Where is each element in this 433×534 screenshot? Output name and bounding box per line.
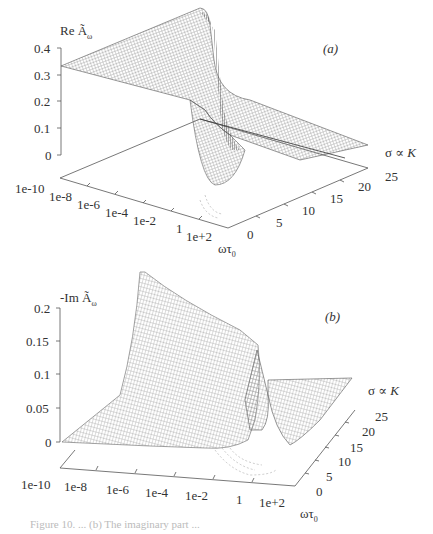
panel-b-xtick: 1e-8 xyxy=(64,480,87,493)
panel-b-ztick: 0.1 xyxy=(34,368,50,381)
panel-a-ytick: 5 xyxy=(276,216,283,229)
panel-b-ytick: 0 xyxy=(316,485,323,498)
panel-a-xtick: 1e+2 xyxy=(186,230,212,243)
panel-b-surface-peak xyxy=(245,350,268,430)
panel-a-y-title: σ ∝ K xyxy=(385,146,416,159)
panel-a-xtick: 1e-10 xyxy=(15,182,45,195)
panel-b-ytick: 5 xyxy=(326,470,333,483)
panel-b-y-title: σ ∝ K xyxy=(368,384,399,397)
panel-b-ytick: 10 xyxy=(338,455,351,468)
panel-b-label: (b) xyxy=(325,310,340,323)
panel-a-xtick: 1e-6 xyxy=(77,198,100,211)
panel-a-x-title: ωτ0 xyxy=(218,242,236,259)
panel-a-xtick: 1e-4 xyxy=(105,206,128,219)
panel-a-z-title: Re Ãω xyxy=(60,24,92,41)
panel-a-ytick: 20 xyxy=(358,180,371,193)
panel-b-z-title: -Im Ãω xyxy=(60,291,97,308)
panel-a-ztick: 0.4 xyxy=(34,42,50,55)
panel-a-xtick: 1e-8 xyxy=(49,190,72,203)
figure-caption: Figure 10. ... (b) The imaginary part ..… xyxy=(30,518,200,530)
panel-b-z-axis xyxy=(56,308,60,442)
panel-b-xtick: 1e-10 xyxy=(21,478,51,491)
panel-a-xtick: 1e-2 xyxy=(133,214,156,227)
panel-b-ytick: 20 xyxy=(362,425,375,438)
panel-b-x-title: ωτ0 xyxy=(300,507,318,524)
panel-a-label: (a) xyxy=(323,42,338,55)
panel-b-xtick: 1 xyxy=(236,493,243,506)
panel-a-xtick: 1 xyxy=(176,222,183,235)
panel-b-xtick: 1e-4 xyxy=(145,486,168,499)
panel-b-base xyxy=(60,410,355,486)
panel-b-xtick: 1e-6 xyxy=(106,483,129,496)
panel-a-ztick: 0.2 xyxy=(34,95,50,108)
panel-a-ytick: 0 xyxy=(247,228,254,241)
panel-b-ztick: 0 xyxy=(45,436,52,449)
panel-b-ztick: 0.05 xyxy=(26,402,49,415)
panel-b-ytick: 25 xyxy=(375,410,388,423)
panel-a-z-axis xyxy=(57,48,61,155)
panel-b-ztick: 0.15 xyxy=(26,335,49,348)
panel-b-xtick: 1e+2 xyxy=(259,496,285,509)
panel-b-ytick: 15 xyxy=(350,441,363,454)
panel-a-ztick: 0.1 xyxy=(34,122,50,135)
panel-b-xtick: 1e-2 xyxy=(185,489,208,502)
panel-a-ytick: 25 xyxy=(385,170,398,183)
panel-a-ytick: 10 xyxy=(302,204,315,217)
panel-b-ztick: 0.2 xyxy=(34,302,50,315)
panel-a-ytick: 15 xyxy=(330,192,343,205)
panel-b-surface-tail xyxy=(268,378,352,445)
panel-a-ztick: 0 xyxy=(45,149,52,162)
panel-a-ztick: 0.3 xyxy=(34,69,50,82)
